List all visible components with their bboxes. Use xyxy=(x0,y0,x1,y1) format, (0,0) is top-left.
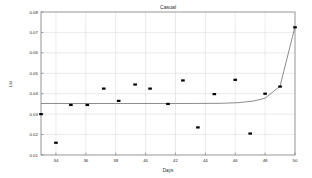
data-point-marker xyxy=(166,103,170,105)
data-point-marker xyxy=(102,88,106,90)
y-tick-label: 0.02 xyxy=(29,132,38,137)
y-tick-label: 0.05 xyxy=(29,71,38,76)
data-point-marker xyxy=(117,100,121,102)
x-tick-label: 36 xyxy=(83,158,88,163)
x-tick-label: 46 xyxy=(233,158,238,163)
data-point-marker xyxy=(39,113,43,115)
data-point-marker xyxy=(248,132,252,134)
x-tick-label: 40 xyxy=(143,158,148,163)
x-tick-label: 50 xyxy=(293,158,298,163)
data-point-marker xyxy=(181,79,185,81)
chart-figure: 343638404244464850 0.010.020.030.040.050… xyxy=(0,0,312,178)
x-tick-label: 34 xyxy=(53,158,58,163)
x-tick-label: 44 xyxy=(203,158,208,163)
chart-canvas: 343638404244464850 0.010.020.030.040.050… xyxy=(0,0,312,178)
data-point-marker xyxy=(54,142,58,144)
x-tick-label: 38 xyxy=(113,158,118,163)
data-point-marker xyxy=(133,83,137,85)
data-point-marker xyxy=(69,104,73,106)
y-tick-label: 0.06 xyxy=(29,50,38,55)
y-axis-label: Lbl xyxy=(8,81,13,87)
chart-title: Casual xyxy=(160,4,176,10)
y-tick-label: 0.01 xyxy=(29,153,38,158)
data-point-marker xyxy=(148,88,152,90)
x-tick-label: 48 xyxy=(263,158,268,163)
data-point-marker xyxy=(213,93,217,95)
x-tick-label: 42 xyxy=(173,158,178,163)
y-tick-label: 0.07 xyxy=(29,30,38,35)
data-point-marker xyxy=(233,79,237,81)
data-point-marker xyxy=(278,85,282,87)
y-tick-label: 0.08 xyxy=(29,10,38,15)
x-axis-label: Days xyxy=(163,168,174,173)
data-point-marker xyxy=(86,104,90,106)
y-tick-label: 0.04 xyxy=(29,91,38,96)
y-tick-label: 0.03 xyxy=(29,112,38,117)
data-point-marker xyxy=(196,126,200,128)
data-point-marker xyxy=(263,93,267,95)
data-point-marker xyxy=(293,26,297,28)
